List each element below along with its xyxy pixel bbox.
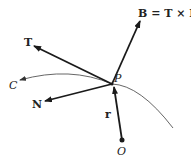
tangent-vector [34, 46, 112, 84]
diagram-canvas: B = T × N T N C P r O [0, 0, 191, 158]
normal-vector [45, 84, 112, 101]
tangent-label: T [24, 36, 33, 49]
point-label: P [113, 72, 122, 85]
frenet-frame-diagram: B = T × N T N C P r O [0, 0, 191, 158]
position-vector [114, 87, 122, 140]
curve-c [20, 74, 173, 128]
normal-label: N [32, 98, 42, 111]
position-vector-label: r [105, 108, 111, 121]
curve-label: C [9, 79, 18, 92]
origin-point [120, 138, 125, 143]
origin-label: O [117, 145, 126, 158]
binormal-label: B = T × N [138, 7, 191, 20]
